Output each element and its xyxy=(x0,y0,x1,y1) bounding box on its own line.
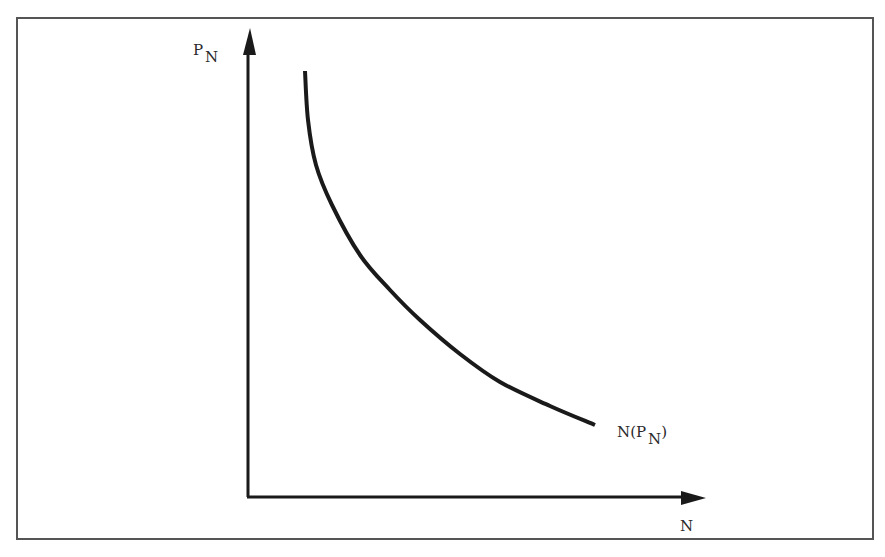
x-axis-label: N xyxy=(680,519,693,534)
curve-label-close: ) xyxy=(661,423,667,441)
y-axis-arrowhead-icon xyxy=(243,28,256,55)
y-axis-label: PN xyxy=(193,43,218,65)
diagram-canvas: PN N(PN) N xyxy=(0,0,885,557)
x-axis-arrowhead-icon xyxy=(681,491,706,505)
curve-label-main: N(P xyxy=(617,423,646,441)
figure-frame xyxy=(17,18,873,539)
y-axis-label-subscript: N xyxy=(205,48,218,66)
diagram-svg xyxy=(0,0,885,557)
curve-label-subscript: N xyxy=(648,430,661,448)
demand-curve xyxy=(305,71,595,425)
curve-label: N(PN) xyxy=(617,425,667,447)
y-axis-label-main: P xyxy=(193,41,203,59)
